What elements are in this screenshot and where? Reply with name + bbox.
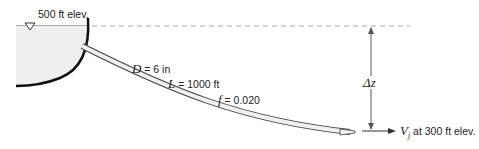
delta-z-label: Δz xyxy=(362,76,377,89)
reservoir-elevation-label: 500 ft elev. xyxy=(38,9,89,20)
jet-label: Vj at 300 ft elev. xyxy=(400,124,475,140)
jet-elevation-text: at 300 ft elev. xyxy=(410,125,475,137)
jet-velocity-symbol: V xyxy=(400,123,408,138)
length-label: L = 1000 ft xyxy=(168,77,219,90)
dz-arrow-down-icon xyxy=(368,123,374,130)
dz-arrow-up-icon xyxy=(368,27,374,34)
nozzle xyxy=(340,129,355,135)
diameter-value: = 6 in xyxy=(141,63,170,75)
jet-arrowhead-icon xyxy=(388,128,396,134)
reservoir-water xyxy=(16,26,88,86)
diameter-label: D = 6 in xyxy=(132,62,170,75)
friction-value: = 0.020 xyxy=(222,94,260,106)
friction-label: f = 0.020 xyxy=(218,93,260,106)
diameter-symbol: D xyxy=(132,61,141,76)
length-value: = 1000 ft xyxy=(175,78,219,90)
